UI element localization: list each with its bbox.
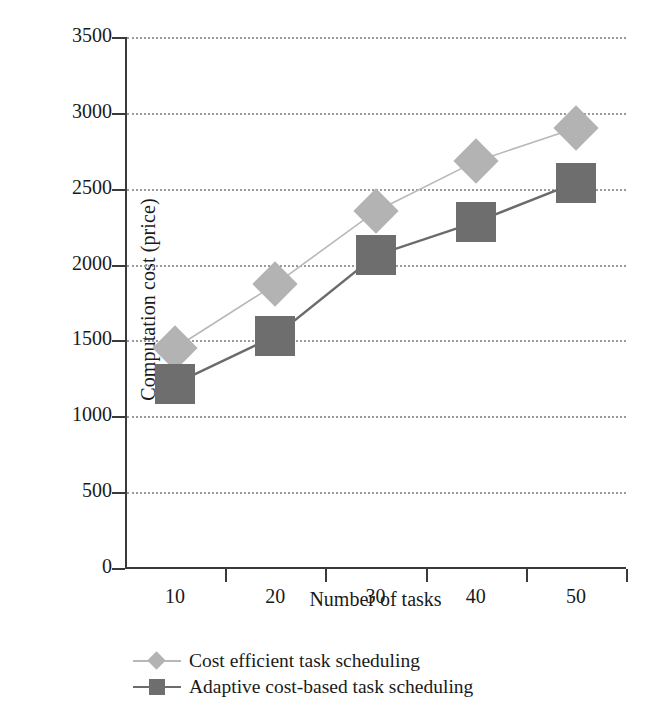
square-marker-icon [149,679,165,695]
y-axis-tick-label: 2000 [22,252,112,275]
legend-label-2: Adaptive cost-based task scheduling [189,676,473,698]
chart-figure: Computation cost (price) 050010001500200… [0,0,658,728]
y-axis-tick-label: 1500 [22,327,112,350]
legend-label-1: Cost efficient task scheduling [189,650,420,672]
y-axis-tick [112,189,125,191]
y-axis-tick [112,113,125,115]
y-axis-tick-label: 0 [22,555,112,578]
x-axis-tick [526,569,528,582]
y-axis-tick [112,416,125,418]
legend-square-icon [133,676,181,698]
y-axis-tick-label: 2500 [22,176,112,199]
y-axis-tick [112,492,125,494]
y-axis-tick-label: 1000 [22,403,112,426]
chart-legend: Cost efficient task scheduling Adaptive … [133,648,593,700]
x-axis-title: Number of tasks [125,588,626,611]
plot-area: 0500100015002000250030003500 1020304050 [125,37,626,568]
square-marker [155,364,195,404]
series-lines [125,37,626,569]
y-axis-tick [112,37,125,39]
legend-item-cost-efficient: Cost efficient task scheduling [133,648,593,674]
y-axis-tick [112,568,125,570]
square-marker [556,163,596,203]
x-axis-tick [426,569,428,582]
y-axis-tick [112,265,125,267]
square-marker [356,235,396,275]
diamond-marker-icon [147,651,165,669]
x-axis-tick [325,569,327,582]
y-axis-tick-label: 500 [22,479,112,502]
x-axis-tick [626,569,628,582]
square-marker [255,316,295,356]
y-axis-tick-label: 3000 [22,100,112,123]
y-axis-tick-label: 3500 [22,24,112,47]
x-axis-tick [225,569,227,582]
y-axis-tick [112,340,125,342]
legend-item-adaptive-cost-based: Adaptive cost-based task scheduling [133,674,593,700]
square-marker [456,202,496,242]
legend-diamond-icon [133,650,181,672]
